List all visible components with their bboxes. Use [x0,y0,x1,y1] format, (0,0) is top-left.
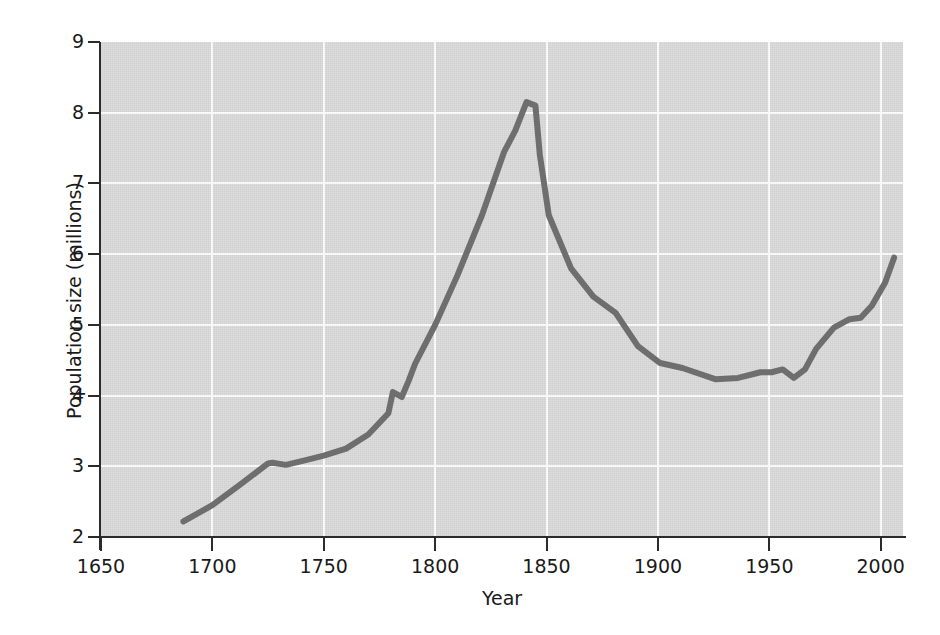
x-tick-mark [100,538,102,551]
x-tick-label: 1850 [502,556,592,577]
x-tick-mark [323,538,325,551]
y-tick-mark [88,536,100,538]
x-tick-mark [211,538,213,551]
x-axis-label: Year [101,588,903,609]
x-tick-mark [546,538,548,551]
plot-area [101,42,903,537]
y-axis-line [99,42,101,550]
x-tick-mark [768,538,770,551]
x-tick-mark [880,538,882,551]
population-line-chart: 23456789 1650170017501800185019001950200… [0,0,940,635]
y-tick-mark [88,465,100,467]
y-tick-mark [88,395,100,397]
data-line-0 [183,102,894,521]
x-tick-label: 1700 [167,556,257,577]
x-tick-mark [657,538,659,551]
y-tick-mark [88,41,100,43]
x-tick-label: 1900 [613,556,703,577]
y-tick-mark [88,253,100,255]
x-tick-label: 2000 [836,556,926,577]
y-axis-label-holder: Population size (millions) [34,40,58,540]
y-tick-mark [88,182,100,184]
x-tick-label: 1800 [390,556,480,577]
data-series-svg [101,42,903,537]
x-tick-mark [434,538,436,551]
y-tick-mark [88,324,100,326]
x-tick-label: 1750 [279,556,369,577]
y-tick-mark [88,112,100,114]
x-tick-label: 1650 [56,556,146,577]
x-tick-label: 1950 [724,556,814,577]
y-axis-label: Population size (millions) [64,101,85,501]
